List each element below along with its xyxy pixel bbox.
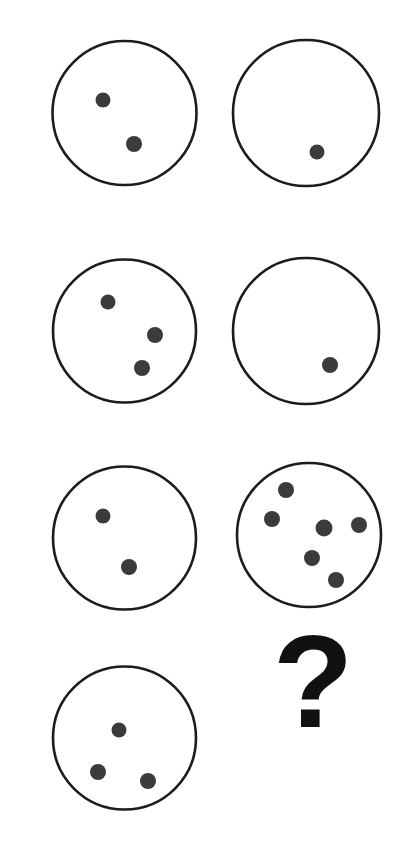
dot [328,572,344,588]
dot [264,511,280,527]
circle-outline [53,41,197,185]
dot [96,93,111,108]
circle-outline [53,467,196,610]
dot [90,764,106,780]
dot [278,482,294,498]
puzzle-cell [53,260,196,403]
circle-outline [53,260,196,403]
dot [112,723,127,738]
puzzle-cell [53,467,196,610]
circle-outline [237,463,381,607]
question-mark-placeholder: ? [273,608,354,755]
circle-outline [233,40,379,186]
puzzle-cell [53,667,196,810]
dot [310,145,325,160]
puzzle-cell: ? [273,608,354,755]
dot [140,773,156,789]
puzzle-cell [233,40,379,186]
circle-outline [233,258,379,404]
puzzle-cell [53,41,197,185]
dot [96,509,111,524]
dot [316,520,333,537]
dot [322,357,338,373]
dot [121,559,137,575]
dot [147,327,163,343]
puzzle-cell [237,463,381,607]
circle-outline [53,667,196,810]
puzzle-cell [233,258,379,404]
dot [351,517,367,533]
dot [101,295,116,310]
dot [304,550,320,566]
dot [134,360,150,376]
puzzle-matrix: ? [0,0,418,841]
dot [126,136,142,152]
puzzle-canvas: ? [0,0,418,841]
